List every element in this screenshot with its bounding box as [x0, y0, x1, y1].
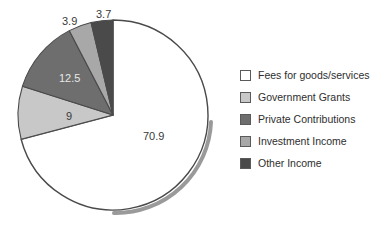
slice-value-label-investment: 3.9	[62, 16, 77, 27]
legend-label-grants: Government Grants	[258, 92, 350, 103]
legend-swatch-icon-investment	[240, 136, 251, 147]
legend-item-private-contributions[interactable]: Private Contributions	[240, 108, 384, 130]
legend-item-government-grants[interactable]: Government Grants	[240, 86, 384, 108]
legend-label-fees: Fees for goods/services	[258, 70, 369, 81]
slice-value-label-fees: 70.9	[143, 131, 164, 142]
legend-swatch-icon-private	[240, 114, 251, 125]
legend-item-fees-for-goods-services[interactable]: Fees for goods/services	[240, 64, 384, 86]
legend-label-other: Other Income	[258, 158, 322, 169]
legend-swatch-icon-other	[240, 158, 251, 169]
legend-swatch-icon-grants	[240, 92, 251, 103]
pie-chart: 70.9 9 12.5 3.9 3.7 Fees for goods/servi…	[0, 0, 384, 229]
slice-value-label-private: 12.5	[59, 73, 80, 84]
slice-value-label-other: 3.7	[96, 9, 111, 20]
slice-value-label-grants: 9	[66, 111, 72, 122]
legend-item-other-income[interactable]: Other Income	[240, 152, 384, 174]
pie-plot-area: 70.9 9 12.5 3.9 3.7	[0, 0, 225, 229]
chart-legend: Fees for goods/services Government Grant…	[240, 64, 384, 174]
legend-item-investment-income[interactable]: Investment Income	[240, 130, 384, 152]
legend-label-investment: Investment Income	[258, 136, 347, 147]
legend-swatch-icon-fees	[240, 70, 251, 81]
legend-label-private: Private Contributions	[258, 114, 355, 125]
pie-svg-overlay	[0, 0, 225, 229]
